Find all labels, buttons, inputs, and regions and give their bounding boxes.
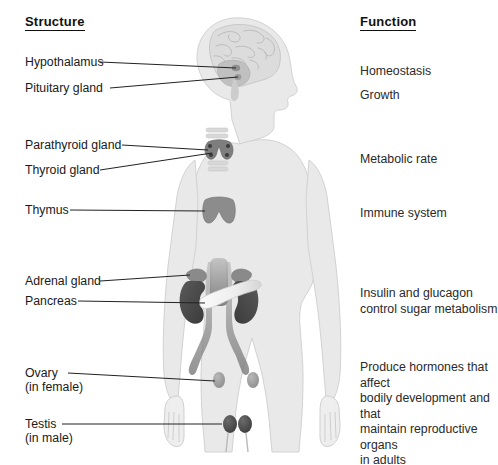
function-metabolic-rate: Metabolic rate [360, 152, 437, 168]
label-adrenal-gland-text: Adrenal gland [25, 274, 101, 288]
label-pancreas: Pancreas [25, 294, 77, 308]
label-ovary-text: Ovary [25, 366, 58, 380]
label-thymus: Thymus [25, 203, 69, 217]
endocrine-system-diagram: Structure Function Hypothalamus Pituitar… [0, 0, 498, 465]
label-parathyroid-gland: Parathyroid gland [25, 138, 121, 152]
label-hypothalamus: Hypothalamus [25, 55, 104, 69]
function-column-heading: Function [360, 14, 416, 31]
structure-column-heading: Structure [25, 14, 85, 31]
label-thyroid-gland-text: Thyroid gland [25, 163, 100, 177]
label-pituitary-gland: Pituitary gland [25, 81, 103, 95]
label-hypothalamus-text: Hypothalamus [25, 55, 104, 69]
label-thymus-text: Thymus [25, 203, 69, 217]
function-growth: Growth [360, 88, 400, 104]
label-testis-sub-text: (in male) [25, 431, 73, 445]
label-pancreas-text: Pancreas [25, 294, 77, 308]
function-insulin-glucagon: Insulin and glucagon control sugar metab… [360, 286, 497, 317]
label-ovary-sub-text: (in female) [25, 380, 83, 394]
label-testis-text: Testis [25, 417, 56, 431]
label-pituitary-gland-text: Pituitary gland [25, 81, 103, 95]
pituitary-gland-organ [235, 74, 242, 80]
hypothalamus-organ [232, 65, 240, 71]
label-ovary: Ovary (in female) [25, 366, 83, 394]
function-immune-system: Immune system [360, 206, 447, 222]
label-testis: Testis (in male) [25, 417, 73, 445]
label-parathyroid-gland-text: Parathyroid gland [25, 138, 121, 152]
function-heading-text: Function [360, 14, 416, 31]
label-thyroid-gland: Thyroid gland [25, 163, 100, 177]
function-homeostasis: Homeostasis [360, 64, 431, 80]
function-reproductive: Produce hormones that affect bodily deve… [360, 360, 498, 465]
structure-heading-text: Structure [25, 14, 85, 31]
label-adrenal-gland: Adrenal gland [25, 274, 101, 288]
